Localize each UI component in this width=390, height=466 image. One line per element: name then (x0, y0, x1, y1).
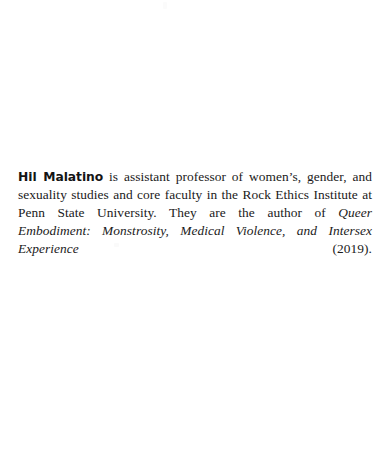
bio-text-after-title: (2019). (79, 241, 372, 256)
author-name: Hil Malatino (18, 170, 103, 184)
author-bio-block: Hil Malatino is assistant professor of w… (18, 168, 372, 277)
scan-artifact-speck (163, 2, 167, 9)
document-page: Hil Malatino is assistant professor of w… (0, 0, 390, 466)
author-bio-paragraph: Hil Malatino is assistant professor of w… (18, 168, 372, 277)
